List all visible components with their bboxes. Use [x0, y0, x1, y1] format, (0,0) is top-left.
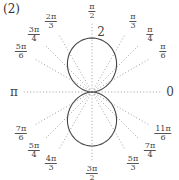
grid-line-225	[45, 92, 92, 139]
angle-label-270: 3π2	[86, 164, 98, 180]
grid-line-315	[92, 92, 139, 139]
grid-line-150	[35, 59, 92, 92]
polar-curve	[67, 38, 116, 146]
angle-label-330: 11π6	[154, 124, 171, 142]
fraction-denominator: 2	[89, 174, 94, 180]
fraction-denominator: 4	[147, 151, 152, 159]
angle-label-210: 7π6	[15, 124, 27, 142]
fraction-denominator: 6	[18, 52, 23, 60]
grid-line-210	[35, 92, 92, 125]
angle-label-135: 3π4	[28, 25, 40, 43]
angle-label-315: 7π4	[144, 141, 156, 159]
fraction-denominator: 2	[89, 12, 94, 20]
fraction-denominator: 3	[130, 22, 135, 30]
angle-label-300: 5π3	[127, 154, 139, 172]
angle-label-225: 5π4	[28, 141, 40, 159]
fraction-denominator: 6	[160, 52, 165, 60]
angle-label-240: 4π3	[45, 154, 57, 172]
grid-line-135	[45, 45, 92, 92]
fraction-denominator: 3	[130, 164, 135, 172]
fraction-denominator: 4	[31, 35, 36, 43]
fraction-denominator: 3	[48, 22, 53, 30]
grid-line-45	[92, 45, 139, 92]
fraction-denominator: 6	[18, 134, 23, 142]
grid-line-330	[92, 92, 149, 125]
angle-label-60: π3	[129, 12, 136, 30]
angle-label-0: 0	[166, 86, 174, 98]
fraction-denominator: 3	[48, 164, 53, 172]
grid-line-30	[92, 59, 149, 92]
angle-label-90: π2	[88, 2, 95, 20]
fraction-denominator: 4	[147, 35, 152, 43]
angle-label-text: π	[10, 85, 18, 99]
fraction-denominator: 4	[31, 151, 36, 159]
angle-label-45: π4	[146, 25, 153, 43]
fraction-denominator: 6	[160, 134, 165, 142]
angle-label-120: 2π3	[45, 12, 57, 30]
angle-label-30: π6	[159, 42, 166, 60]
r-max-label: 2	[97, 26, 105, 38]
angle-label-text: 0	[166, 85, 174, 99]
angle-label-150: 5π6	[15, 42, 27, 60]
angle-label-180: π	[10, 86, 18, 98]
